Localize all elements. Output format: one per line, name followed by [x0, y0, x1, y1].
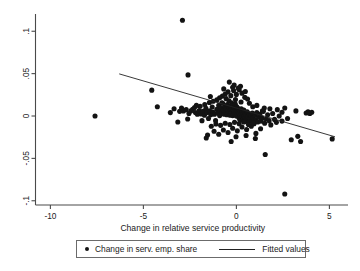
- scatter-point: [295, 134, 300, 139]
- scatter-plot-canvas: .1.050-.05-.1-10-505Change in relative s…: [0, 0, 360, 271]
- x-tick-label: 5: [327, 211, 332, 221]
- legend-marker-line-icon: [219, 249, 255, 250]
- scatter-point: [285, 116, 290, 121]
- scatter-point: [229, 139, 234, 144]
- legend-item-scatter: Change in serv. emp. share: [77, 241, 197, 257]
- scatter-point: [260, 108, 265, 113]
- scatter-point: [246, 122, 251, 127]
- scatter-point: [199, 118, 204, 123]
- scatter-point: [232, 120, 237, 125]
- scatter-point: [253, 136, 258, 141]
- scatter-points-group: [92, 18, 334, 197]
- scatter-point: [282, 105, 287, 110]
- scatter-point: [279, 110, 284, 115]
- scatter-point: [244, 127, 249, 132]
- scatter-point: [210, 105, 215, 110]
- scatter-point: [293, 108, 298, 113]
- scatter-point: [179, 105, 184, 110]
- scatter-point: [237, 121, 242, 126]
- scatter-point: [149, 88, 154, 93]
- scatter-point: [175, 119, 180, 124]
- scatter-point: [194, 103, 199, 108]
- x-tick-label: 0: [234, 211, 239, 221]
- legend-label-scatter: Change in serv. emp. share: [95, 244, 197, 254]
- scatter-point: [216, 132, 221, 137]
- scatter-point: [251, 120, 256, 125]
- x-axis-title: Change in relative service productivity: [120, 223, 265, 233]
- scatter-point: [180, 18, 185, 23]
- scatter-point: [209, 124, 214, 129]
- scatter-point: [227, 80, 232, 85]
- scatter-point: [243, 89, 248, 94]
- y-tick-label: .05: [21, 67, 31, 79]
- y-tick-label: .1: [21, 27, 31, 34]
- legend-item-fitted: Fitted values: [197, 241, 309, 257]
- scatter-point: [92, 113, 97, 118]
- chart-legend: Change in serv. emp. share Fitted values: [76, 240, 306, 258]
- scatter-point: [244, 133, 249, 138]
- scatter-point: [185, 72, 190, 77]
- scatter-point: [298, 139, 303, 144]
- scatter-point: [218, 123, 223, 128]
- scatter-point: [185, 116, 190, 121]
- x-tick-label: -10: [44, 211, 56, 221]
- scatter-point: [235, 128, 240, 133]
- scatter-point: [330, 136, 335, 141]
- scatter-point: [234, 92, 239, 97]
- scatter-point: [227, 122, 232, 127]
- scatter-point: [309, 110, 314, 115]
- scatter-point: [268, 122, 273, 127]
- scatter-point: [238, 84, 243, 89]
- scatter-point: [221, 127, 226, 132]
- y-tick-label: -.05: [21, 151, 31, 166]
- scatter-point: [224, 96, 229, 101]
- scatter-point: [282, 191, 287, 196]
- scatter-point: [232, 83, 237, 88]
- y-tick-label: -.1: [21, 196, 31, 206]
- scatter-point: [221, 86, 226, 91]
- scatter-point: [275, 107, 280, 112]
- scatter-point: [225, 130, 230, 135]
- scatter-point: [233, 97, 238, 102]
- scatter-point: [258, 126, 263, 131]
- scatter-point: [228, 93, 233, 98]
- legend-marker-dot-icon: [85, 247, 89, 251]
- scatter-point: [250, 104, 255, 109]
- scatter-point: [223, 121, 228, 126]
- chart-figure: .1.050-.05-.1-10-505Change in relative s…: [0, 0, 360, 271]
- scatter-point: [238, 99, 243, 104]
- scatter-point: [270, 111, 275, 116]
- scatter-point: [241, 119, 246, 124]
- scatter-point: [172, 106, 177, 111]
- scatter-point: [202, 102, 207, 107]
- scatter-point: [212, 129, 217, 134]
- scatter-point: [188, 108, 193, 113]
- scatter-point: [289, 137, 294, 142]
- scatter-point: [208, 94, 213, 99]
- legend-label-fitted: Fitted values: [262, 244, 309, 254]
- scatter-point: [263, 152, 268, 157]
- scatter-point: [204, 135, 209, 140]
- scatter-point: [233, 134, 238, 139]
- scatter-point: [213, 122, 218, 127]
- scatter-point: [155, 104, 160, 109]
- scatter-point: [267, 106, 272, 111]
- scatter-point: [168, 110, 173, 115]
- y-tick-label: 0: [21, 113, 31, 118]
- scatter-point: [253, 131, 258, 136]
- x-tick-label: -5: [140, 211, 148, 221]
